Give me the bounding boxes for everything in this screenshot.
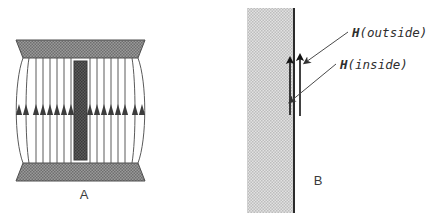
panel-b: H(outside) H(inside) B: [247, 8, 427, 213]
field-arrowhead: [61, 104, 67, 115]
h-outside-qualifier: (outside): [360, 25, 428, 40]
h-outside-label: H(outside): [351, 25, 427, 40]
field-arrowhead: [87, 104, 93, 115]
panel-a: A: [0, 40, 145, 202]
panel-b-caption: B: [314, 173, 323, 188]
panel-a-caption: A: [80, 187, 89, 202]
field-arrowhead: [23, 104, 29, 115]
field-arrowhead: [94, 104, 100, 115]
field-arrowhead: [16, 104, 22, 115]
h-inside-qualifier: (inside): [348, 57, 408, 72]
field-arrowhead: [101, 104, 107, 115]
bottom-plate: [16, 163, 145, 181]
field-arrowhead: [122, 104, 128, 115]
field-arrowhead: [54, 104, 60, 115]
h-inside-leader: [291, 64, 336, 101]
top-plate: [16, 40, 145, 58]
field-arrowhead: [40, 104, 46, 115]
field-arrowhead: [139, 104, 145, 115]
field-arrowhead: [47, 104, 53, 115]
core-slab: [74, 61, 87, 160]
figure-container: A H(outside) H(inside) B: [0, 0, 439, 223]
field-arrowhead: [132, 104, 138, 115]
field-arrowhead: [68, 104, 74, 115]
magnetic-medium: [247, 8, 294, 213]
field-arrowhead: [115, 104, 121, 115]
field-arrowhead: [33, 104, 39, 115]
h-inside-label: H(inside): [339, 57, 408, 72]
physics-figure: A H(outside) H(inside) B: [0, 0, 439, 223]
field-arrowhead: [108, 104, 114, 115]
